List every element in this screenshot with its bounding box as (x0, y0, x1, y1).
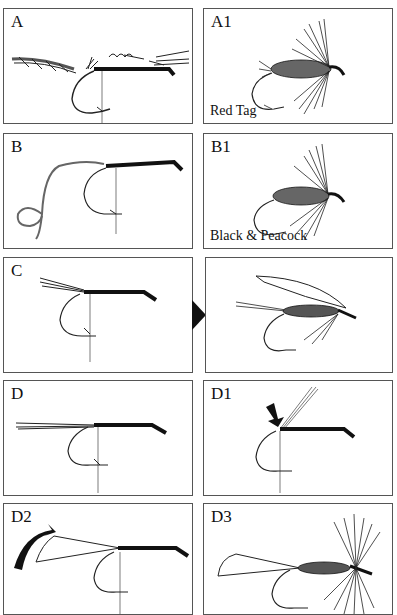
panel-b: B (3, 133, 193, 249)
pointer-arrow-icon (266, 403, 284, 427)
hook-with-tail-illustration (4, 258, 193, 373)
red-tag-fly-illustration (204, 9, 393, 124)
panel-b1: B1 Black & Peacock (203, 133, 393, 249)
winged-wet-fly-illustration (206, 258, 393, 373)
panel-d: D (3, 380, 193, 496)
hook-with-wing-slip-illustration (4, 504, 193, 615)
curved-rotate-arrow-icon (14, 524, 56, 570)
hook-with-hackle-fibers-illustration (4, 381, 193, 496)
panel-a: A (3, 8, 193, 124)
panel-d1: D1 (203, 380, 393, 496)
panel-a1: A1 Red Tag (203, 8, 393, 124)
panel-d2: D2 (3, 503, 193, 615)
panel-c1 (205, 257, 393, 373)
dry-fly-illustration (204, 504, 393, 615)
hook-with-upright-fibers-illustration (204, 381, 393, 496)
panel-c: C (3, 257, 193, 373)
right-triangle-arrow-icon (192, 300, 206, 330)
black-and-peacock-fly-illustration (204, 134, 393, 249)
panel-d3: D3 (203, 503, 393, 615)
hook-with-peacock-herl-illustration (4, 134, 193, 249)
hook-with-twisted-floss-illustration (4, 9, 193, 124)
